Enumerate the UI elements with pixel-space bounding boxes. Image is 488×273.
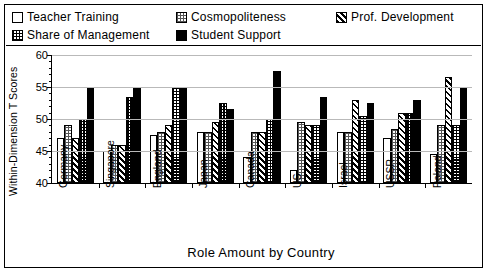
legend-swatch-icon-student-support — [176, 30, 187, 41]
legend-swatch-icon-prof-development — [336, 12, 347, 23]
gridline — [52, 119, 472, 120]
x-tick-label: Germany — [58, 145, 69, 188]
bar[interactable] — [413, 100, 421, 183]
bar[interactable] — [320, 97, 328, 183]
legend-item-prof-development[interactable]: Prof. Development — [336, 8, 454, 26]
y-tick-major — [47, 55, 52, 56]
x-tick-label: England — [151, 149, 162, 188]
legend-item-cosmopoliteness[interactable]: Cosmopoliteness — [176, 8, 286, 26]
y-tick-minor — [49, 164, 52, 165]
legend-label-share-of-management: Share of Management — [27, 29, 150, 42]
x-tick-cell: US — [284, 188, 331, 243]
y-tick-major — [47, 151, 52, 152]
x-tick-cell: Japan — [191, 188, 238, 243]
x-tick-cell: USSR — [378, 188, 425, 243]
y-tick-minor — [49, 132, 52, 133]
x-tick-cell: England — [144, 188, 191, 243]
y-tick-minor — [49, 93, 52, 94]
bar[interactable] — [359, 116, 367, 183]
y-tick-major — [47, 119, 52, 120]
bar[interactable] — [445, 77, 453, 183]
x-tick-cell: Israel — [331, 188, 378, 243]
y-axis-title: Within-Dimension T Scores — [7, 61, 23, 201]
x-tick-label: Poland — [431, 155, 442, 188]
chart-figure: Teacher Training Cosmopoliteness Prof. D… — [0, 0, 488, 273]
bar[interactable] — [72, 138, 80, 183]
bar[interactable] — [460, 87, 468, 183]
x-tick-label: US — [291, 173, 302, 188]
x-tick-label: Israel — [338, 162, 349, 188]
legend-row-1: Teacher Training Cosmopoliteness Prof. D… — [6, 8, 481, 26]
legend-label-teacher-training: Teacher Training — [27, 11, 119, 24]
y-tick-minor — [49, 61, 52, 62]
legend-label-cosmopoliteness: Cosmopoliteness — [191, 11, 286, 24]
bar[interactable] — [452, 125, 460, 183]
bar[interactable] — [312, 125, 320, 183]
gridline — [52, 55, 472, 56]
bar[interactable] — [305, 125, 313, 183]
y-tick-minor — [49, 170, 52, 171]
legend-label-prof-development: Prof. Development — [351, 11, 454, 24]
legend-swatch-icon-share-of-management — [12, 30, 23, 41]
bar[interactable] — [212, 122, 220, 183]
y-tick-minor — [49, 106, 52, 107]
bar[interactable] — [219, 103, 227, 183]
y-tick-minor — [49, 113, 52, 114]
y-tick-minor — [49, 125, 52, 126]
bar[interactable] — [227, 109, 235, 183]
x-tick-label: Singapore — [105, 140, 116, 188]
legend-swatch-icon-teacher-training — [12, 12, 23, 23]
plot-area: Within-Dimension T Scores 4045505560 Ger… — [6, 47, 481, 266]
bar[interactable] — [87, 87, 95, 183]
bar[interactable] — [406, 113, 414, 183]
bar[interactable] — [126, 97, 134, 183]
y-tick-minor — [49, 138, 52, 139]
gridline — [52, 87, 472, 88]
x-tick-cell: Germany — [51, 188, 98, 243]
chart-legend: Teacher Training Cosmopoliteness Prof. D… — [6, 6, 481, 46]
legend-row-2: Share of Management Student Support — [6, 26, 481, 44]
bar[interactable] — [165, 125, 173, 183]
y-tick-minor — [49, 157, 52, 158]
x-tick-cell: Canada — [238, 188, 285, 243]
legend-item-share-of-management[interactable]: Share of Management — [12, 26, 150, 44]
x-tick-cell: Singapore — [98, 188, 145, 243]
y-tick-minor — [49, 81, 52, 82]
y-tick-major — [47, 87, 52, 88]
bar[interactable] — [172, 87, 180, 183]
legend-swatch-icon-cosmopoliteness — [176, 12, 187, 23]
legend-item-teacher-training[interactable]: Teacher Training — [12, 8, 119, 26]
bar[interactable] — [398, 113, 406, 183]
y-tick-minor — [49, 68, 52, 69]
y-tick-major — [47, 183, 52, 184]
y-axis-tick-labels: 4045505560 — [24, 47, 50, 183]
x-axis-tick-labels: GermanySingaporeEnglandJapanCanadaUSIsra… — [51, 188, 471, 243]
x-axis-title: Role Amount by Country — [51, 245, 471, 260]
y-tick-minor — [49, 177, 52, 178]
y-tick-minor — [49, 145, 52, 146]
bar[interactable] — [352, 100, 360, 183]
legend-item-student-support[interactable]: Student Support — [176, 26, 281, 44]
bar[interactable] — [258, 132, 266, 183]
bar[interactable] — [367, 103, 375, 183]
legend-label-student-support: Student Support — [191, 29, 281, 42]
x-tick-label: Japan — [198, 159, 209, 188]
y-tick-minor — [49, 74, 52, 75]
bar[interactable] — [133, 87, 141, 183]
bar[interactable] — [180, 87, 188, 183]
x-tick-label: Canada — [245, 151, 256, 188]
x-tick-label: USSR — [385, 159, 396, 188]
y-tick-minor — [49, 100, 52, 101]
x-tick-cell: Poland — [424, 188, 471, 243]
